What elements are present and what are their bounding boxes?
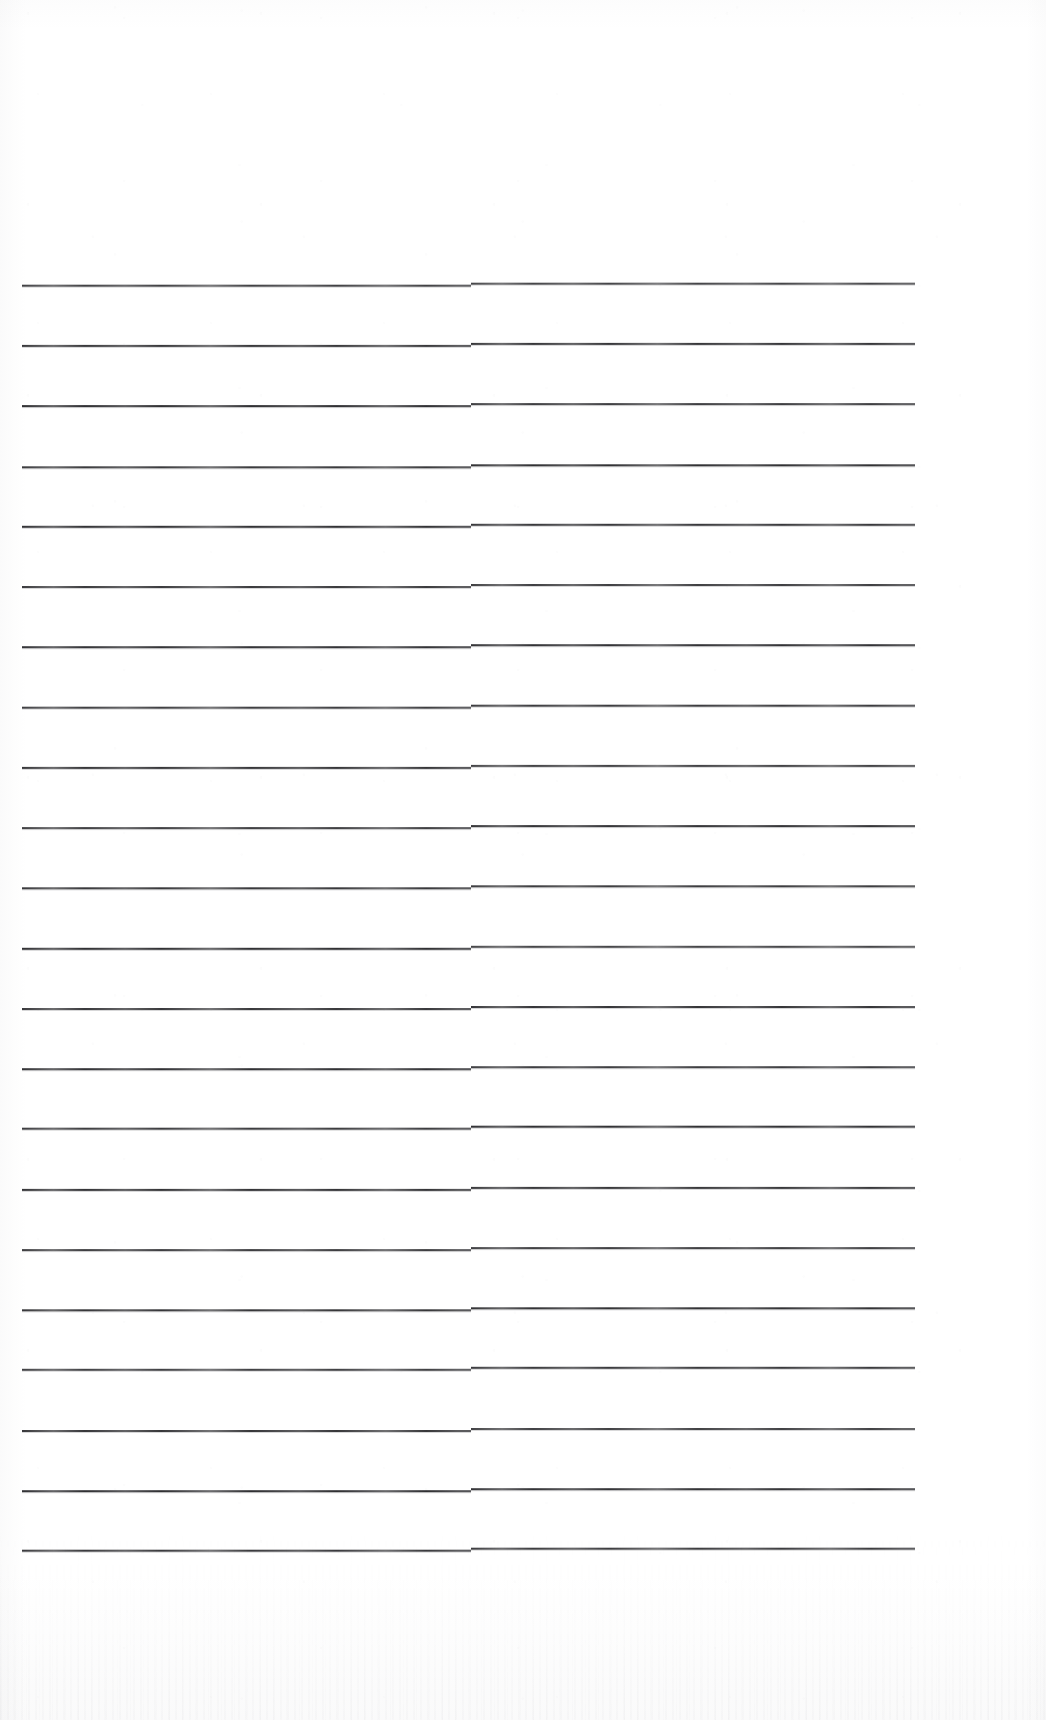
ruled-line-segment-right: [471, 1367, 915, 1369]
ruled-line: [0, 1428, 1046, 1434]
ruled-line: [0, 1488, 1046, 1494]
ruled-line-segment-left: [22, 285, 471, 287]
ruled-line-segment-left: [22, 948, 471, 950]
ruled-line-segment-right: [471, 705, 915, 707]
ruled-line-segment-right: [471, 1548, 915, 1550]
ruled-line-segment-left: [22, 466, 471, 468]
ruled-line-segment-right: [471, 885, 915, 887]
ruled-line-segment-left: [22, 1309, 471, 1311]
paper-grain-texture: [0, 0, 1046, 1720]
ruled-line: [0, 343, 1046, 349]
ruled-line-segment-left: [22, 707, 471, 709]
ruled-line: [0, 1548, 1046, 1554]
ruled-line-segment-left: [22, 646, 471, 648]
ruled-line-segment-right: [471, 464, 915, 466]
ruled-line-segment-right: [471, 825, 915, 827]
ruled-line: [0, 1006, 1046, 1012]
ruled-line-segment-right: [471, 1488, 915, 1490]
ruled-line: [0, 464, 1046, 470]
ruled-line: [0, 705, 1046, 711]
ruled-line-segment-right: [471, 1428, 915, 1430]
ruled-line-segment-right: [471, 1307, 915, 1309]
ruled-line-segment-right: [471, 765, 915, 767]
ruled-line: [0, 1187, 1046, 1193]
ruled-line: [0, 1247, 1046, 1253]
ruled-line-segment-right: [471, 644, 915, 646]
ruled-line-segment-right: [471, 1126, 915, 1128]
ruled-line: [0, 1126, 1046, 1132]
ruled-line-segment-left: [22, 1249, 471, 1251]
ruled-line: [0, 1066, 1046, 1072]
ruled-line-segment-right: [471, 946, 915, 948]
ruled-line-segment-left: [22, 1008, 471, 1010]
scan-edge-shadow: [0, 0, 1046, 1720]
ruled-line: [0, 1307, 1046, 1313]
ruled-line-segment-left: [22, 345, 471, 347]
ruled-line: [0, 765, 1046, 771]
ruled-line-segment-left: [22, 1430, 471, 1432]
ruled-line-segment-left: [22, 1490, 471, 1492]
ruled-line: [0, 1367, 1046, 1373]
ruled-line: [0, 524, 1046, 530]
ruled-line: [0, 403, 1046, 409]
ruled-line: [0, 644, 1046, 650]
ruled-line: [0, 283, 1046, 289]
ruled-line-segment-left: [22, 767, 471, 769]
ruled-line-segment-left: [22, 827, 471, 829]
ruled-line-segment-left: [22, 405, 471, 407]
ruled-line-segment-left: [22, 1369, 471, 1371]
ruled-line: [0, 825, 1046, 831]
ruled-line-segment-left: [22, 887, 471, 889]
scan-noise-band: [0, 1530, 1046, 1720]
ruled-line-segment-right: [471, 1066, 915, 1068]
ruled-line: [0, 584, 1046, 590]
ruled-line-segment-left: [22, 526, 471, 528]
ruled-line-segment-left: [22, 1128, 471, 1130]
ruled-line-segment-right: [471, 403, 915, 405]
ruled-line-segment-right: [471, 524, 915, 526]
ruled-line-segment-right: [471, 283, 915, 285]
ruled-line: [0, 885, 1046, 891]
ruled-line-segment-right: [471, 1247, 915, 1249]
ruled-line-segment-right: [471, 1006, 915, 1008]
ruled-line-segment-right: [471, 584, 915, 586]
ruled-line-segment-left: [22, 1189, 471, 1191]
scanned-page: [0, 0, 1046, 1720]
ruled-line: [0, 946, 1046, 952]
ruled-line-segment-left: [22, 1068, 471, 1070]
ruled-line-segment-left: [22, 586, 471, 588]
ruled-line-segment-left: [22, 1550, 471, 1552]
ruled-line-segment-right: [471, 343, 915, 345]
ruled-line-segment-right: [471, 1187, 915, 1189]
